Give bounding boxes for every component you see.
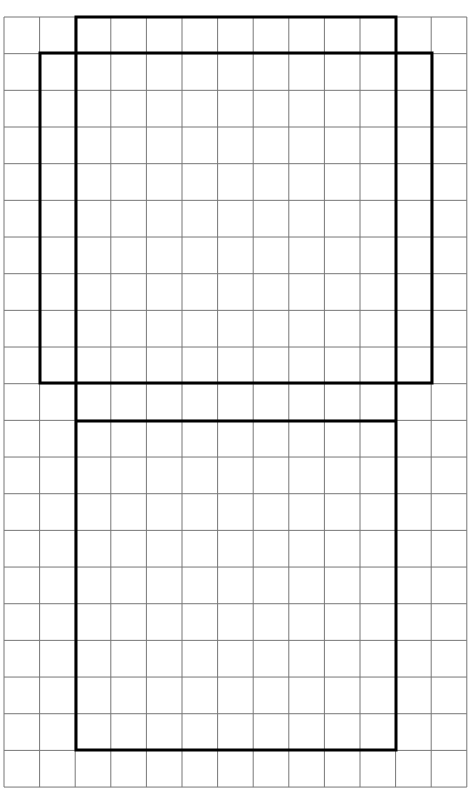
grid-diagram [0, 0, 469, 794]
wide-rectangle [40, 53, 432, 383]
